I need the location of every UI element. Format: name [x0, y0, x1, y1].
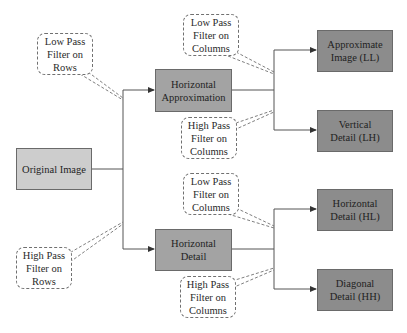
high-pass-rows-callout: High Pass Filter on Rows	[16, 247, 72, 289]
vertical-detail-lh-node: Vertical Detail (LH)	[317, 110, 393, 152]
original-image-label: Original Image	[22, 163, 86, 176]
high-pass-columns-bottom-label: High Pass Filter on Columns	[187, 278, 229, 317]
approximate-image-ll-label: Approximate Image (LL)	[327, 38, 382, 64]
horizontal-detail-hl-node: Horizontal Detail (HL)	[317, 189, 393, 231]
low-pass-columns-bottom-label: Low Pass Filter on Columns	[191, 175, 232, 214]
horizontal-detail-hl-label: Horizontal Detail (HL)	[330, 197, 379, 223]
low-pass-rows-label: Low Pass Filter on Rows	[45, 35, 86, 74]
wavelet-decomposition-diagram: Original Image Horizontal Approximation …	[0, 0, 407, 333]
original-image-node: Original Image	[16, 148, 92, 190]
low-pass-columns-top-callout: Low Pass Filter on Columns	[183, 14, 239, 56]
horizontal-approximation-node: Horizontal Approximation	[155, 69, 232, 112]
high-pass-columns-bottom-callout: High Pass Filter on Columns	[180, 276, 236, 318]
horizontal-detail-node: Horizontal Detail	[155, 229, 232, 271]
horizontal-approximation-label: Horizontal Approximation	[161, 78, 225, 104]
low-pass-rows-callout: Low Pass Filter on Rows	[37, 33, 93, 75]
vertical-detail-lh-label: Vertical Detail (LH)	[330, 118, 379, 144]
high-pass-rows-label: High Pass Filter on Rows	[23, 249, 65, 288]
approximate-image-ll-node: Approximate Image (LL)	[317, 30, 393, 72]
high-pass-columns-top-callout: High Pass Filter on Columns	[181, 117, 237, 159]
high-pass-columns-top-label: High Pass Filter on Columns	[188, 119, 230, 158]
horizontal-detail-label: Horizontal Detail	[171, 237, 216, 263]
low-pass-columns-bottom-callout: Low Pass Filter on Columns	[183, 173, 239, 215]
diagonal-detail-hh-node: Diagonal Detail (HH)	[317, 269, 393, 311]
diagonal-detail-hh-label: Diagonal Detail (HH)	[330, 277, 380, 303]
low-pass-columns-top-label: Low Pass Filter on Columns	[191, 16, 232, 55]
